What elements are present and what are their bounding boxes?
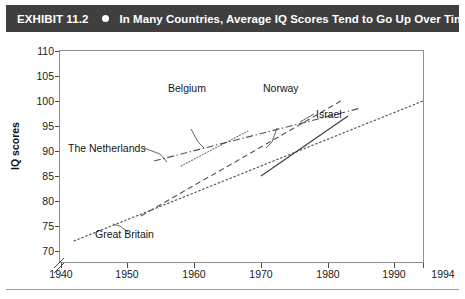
series-label-great-britain: Great Britain: [95, 228, 154, 240]
y-axis-break-icon: [54, 258, 64, 273]
series-label-belgium: Belgium: [168, 82, 206, 94]
series-label-the-netherlands: The Netherlands: [68, 142, 146, 154]
series-lines-layer: [0, 32, 465, 290]
chart-area: IQ scores 110 105 100 95 90 85 80 75 70 …: [0, 32, 465, 290]
exhibit-title: In Many Countries, Average IQ Scores Ten…: [120, 13, 465, 25]
series-line-great-britain: [74, 101, 423, 241]
leader-line-norway: [266, 128, 277, 148]
exhibit-number: EXHIBIT 11.2: [17, 13, 89, 25]
exhibit-title-bar: EXHIBIT 11.2 In Many Countries, Average …: [6, 5, 459, 32]
leader-line-the-netherlands: [144, 148, 167, 162]
bullet-dot-icon: [102, 15, 109, 22]
bottom-divider: [6, 289, 459, 290]
series-line-israel: [261, 116, 348, 176]
series-label-israel: Israel: [316, 108, 342, 120]
series-label-norway: Norway: [263, 82, 299, 94]
leader-line-belgium: [191, 129, 204, 148]
series-line-the-netherlands: [141, 101, 341, 216]
exhibit-figure: EXHIBIT 11.2 In Many Countries, Average …: [0, 0, 465, 299]
